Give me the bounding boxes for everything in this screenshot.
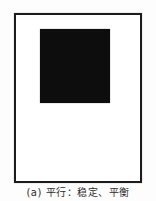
black-square [40, 29, 110, 103]
figure-caption: (a) 平行：稳定、平衡 [0, 187, 156, 199]
scanned-figure: (a) 平行：稳定、平衡 [0, 0, 156, 201]
picture-frame [14, 13, 142, 183]
